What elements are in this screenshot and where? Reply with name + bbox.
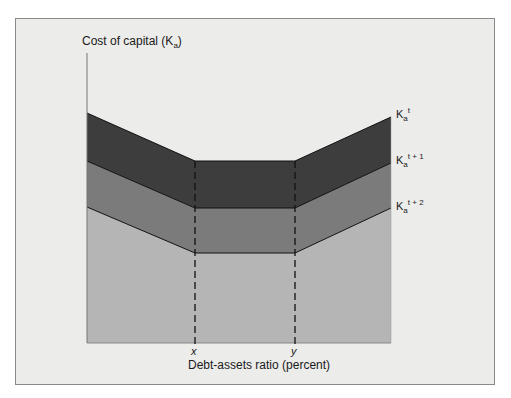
cost-of-capital-chart bbox=[0, 0, 511, 398]
x-tick-y: y bbox=[291, 345, 297, 357]
series-label-ka-t: Kat bbox=[396, 108, 410, 120]
series-label-ka-t1: Kat + 1 bbox=[396, 154, 424, 166]
series-label-ka-t2: Kat + 2 bbox=[396, 200, 424, 212]
y-axis-label: Cost of capital (Ka) bbox=[82, 34, 182, 48]
x-axis-label: Debt-assets ratio (percent) bbox=[188, 358, 330, 372]
x-tick-x: x bbox=[191, 345, 197, 357]
